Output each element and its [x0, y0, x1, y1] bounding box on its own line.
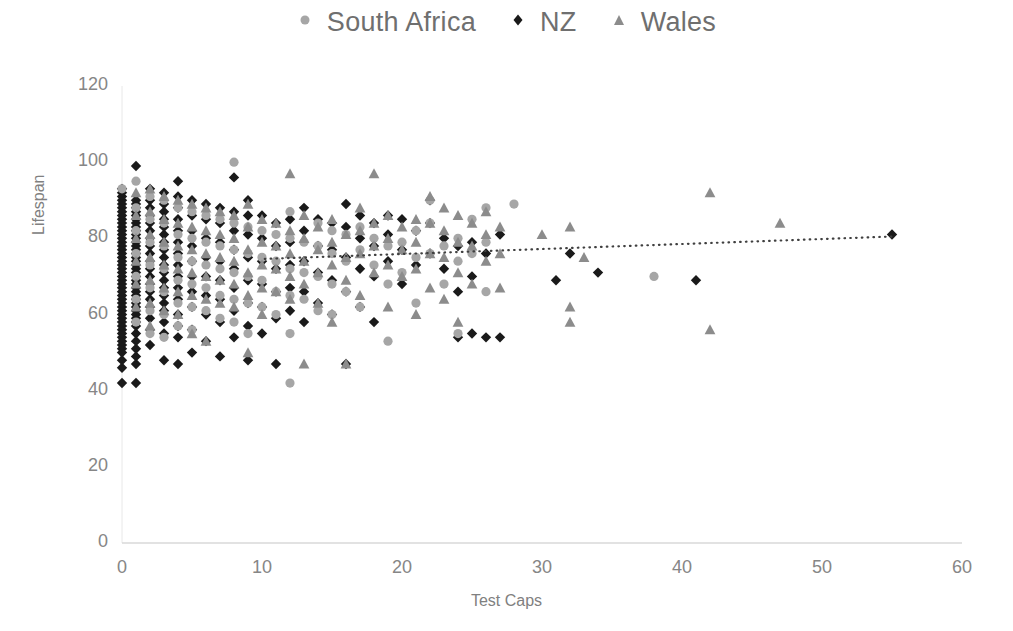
data-point	[215, 252, 226, 262]
data-point	[481, 287, 490, 296]
data-point	[439, 225, 450, 235]
data-point	[187, 267, 198, 277]
data-point	[187, 234, 196, 243]
y-axis-tick: 120	[60, 74, 108, 95]
x-axis-label-wrap: Test Caps	[0, 592, 1013, 610]
data-point	[887, 229, 897, 239]
series-south-africa	[117, 158, 658, 388]
data-point	[243, 290, 254, 300]
data-point	[187, 347, 197, 357]
data-point	[439, 264, 449, 274]
data-point	[495, 222, 506, 232]
x-axis-tick: 50	[792, 557, 852, 578]
data-point	[257, 309, 268, 319]
data-point	[565, 248, 575, 258]
data-point	[341, 275, 352, 285]
data-point	[565, 301, 576, 311]
y-axis-tick: 20	[60, 455, 108, 476]
y-axis-label-wrap: Lifespan	[30, 175, 48, 236]
data-point	[285, 305, 295, 315]
data-point	[411, 298, 420, 307]
data-point	[341, 199, 351, 209]
data-point	[215, 351, 225, 361]
data-point	[411, 226, 420, 235]
data-point	[299, 233, 310, 243]
data-point	[369, 267, 380, 277]
data-point	[243, 267, 254, 277]
data-point	[285, 271, 296, 281]
data-point	[481, 256, 492, 266]
data-point	[481, 229, 492, 239]
data-point	[649, 272, 658, 281]
x-axis-tick: 20	[372, 557, 432, 578]
data-point	[439, 279, 448, 288]
data-point	[369, 168, 380, 178]
data-point	[173, 276, 182, 285]
data-point	[565, 222, 576, 232]
data-point	[453, 257, 462, 266]
data-point	[383, 279, 392, 288]
data-point	[495, 282, 506, 292]
scatter-chart: South Africa NZ Wales Lifespan Test Caps…	[0, 0, 1013, 631]
data-point	[215, 241, 224, 250]
data-point	[201, 283, 210, 292]
data-point	[201, 248, 212, 258]
data-point	[327, 279, 336, 288]
data-point	[775, 218, 786, 228]
data-point	[173, 298, 182, 307]
data-point	[509, 199, 518, 208]
y-axis-label: Lifespan	[30, 175, 47, 236]
data-point	[201, 306, 210, 315]
data-point	[327, 317, 338, 327]
data-point	[425, 282, 436, 292]
data-point	[145, 321, 156, 331]
data-point	[453, 317, 464, 327]
data-point	[299, 317, 309, 327]
data-point	[355, 290, 366, 300]
data-point	[173, 332, 183, 342]
data-point	[355, 302, 364, 311]
data-point	[453, 329, 462, 338]
data-point	[327, 237, 338, 247]
data-point	[537, 229, 548, 239]
data-point	[229, 233, 240, 243]
data-point	[229, 268, 238, 277]
data-point	[327, 226, 336, 235]
data-point	[327, 260, 338, 270]
data-point	[299, 210, 310, 220]
data-point	[271, 359, 281, 369]
data-point	[229, 301, 240, 311]
data-point	[187, 279, 196, 288]
data-point	[565, 317, 576, 327]
data-point	[145, 340, 155, 350]
data-point	[593, 267, 603, 277]
data-point	[229, 318, 238, 327]
data-point	[173, 321, 182, 330]
data-point	[215, 314, 224, 323]
data-point	[453, 267, 464, 277]
data-point	[229, 158, 238, 167]
data-point	[467, 328, 477, 338]
data-point	[285, 329, 294, 338]
axis-lines	[122, 86, 962, 543]
x-axis-tick: 10	[232, 557, 292, 578]
data-point	[439, 202, 450, 212]
data-point	[117, 184, 126, 193]
x-axis-tick: 60	[932, 557, 992, 578]
data-point	[425, 191, 436, 201]
x-axis-tick: 30	[512, 557, 572, 578]
data-point	[201, 225, 212, 235]
data-point	[495, 332, 505, 342]
data-point	[131, 378, 141, 388]
y-axis-tick: 80	[60, 226, 108, 247]
data-point	[285, 248, 296, 258]
data-point	[173, 359, 183, 369]
data-point	[691, 275, 701, 285]
data-point	[187, 222, 198, 232]
data-point	[131, 187, 142, 197]
data-point	[299, 295, 308, 304]
data-point	[341, 287, 350, 296]
x-axis-tick: 0	[92, 557, 152, 578]
data-point	[243, 329, 252, 338]
data-point	[285, 207, 294, 216]
